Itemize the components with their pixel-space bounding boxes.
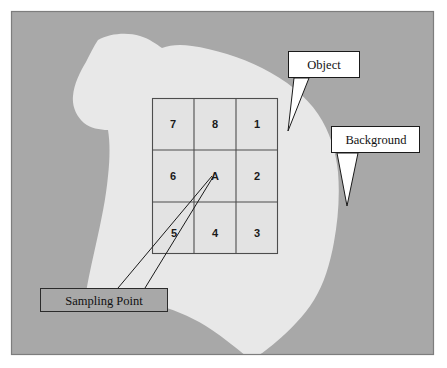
grid-cell-7: 7 xyxy=(170,118,176,130)
framed-illustration: 7 8 1 6 A 2 5 4 3 Object xyxy=(11,11,434,356)
grid-cell-4: 4 xyxy=(212,227,219,239)
callout-sampling-point[interactable]: Sampling Point xyxy=(41,289,168,312)
grid-cell-6: 6 xyxy=(170,170,176,182)
grid-cell-A: A xyxy=(211,170,219,182)
grid-cell-8: 8 xyxy=(212,118,218,130)
diagram-svg: 7 8 1 6 A 2 5 4 3 Object xyxy=(0,0,447,368)
object-callout-label: Object xyxy=(307,58,341,72)
figure-canvas: 7 8 1 6 A 2 5 4 3 Object xyxy=(0,0,447,368)
grid-cell-1: 1 xyxy=(254,118,260,130)
sampling-point-callout-label: Sampling Point xyxy=(65,294,143,308)
grid-cell-2: 2 xyxy=(254,170,260,182)
grid-cell-3: 3 xyxy=(254,227,260,239)
background-callout-label: Background xyxy=(345,133,407,147)
